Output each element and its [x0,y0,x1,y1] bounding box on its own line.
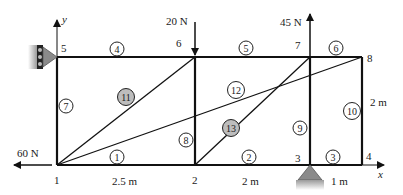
dimension-2-3: 2 m [242,175,259,187]
svg-text:2: 2 [247,152,252,163]
node-label-5: 5 [61,42,67,54]
roller-support-node-5 [28,45,57,69]
member-label-2: 2 [242,150,256,164]
roller-icon [38,55,42,59]
node-label-7: 7 [295,39,301,51]
svg-text:13: 13 [226,123,236,134]
svg-text:11: 11 [121,92,131,103]
member-label-11: 11 [118,89,135,106]
svg-text:8: 8 [184,135,189,146]
member-label-8: 8 [179,133,193,147]
node-label-3: 3 [295,152,301,164]
load-label: 20 N [166,15,188,27]
svg-text:4: 4 [115,44,120,55]
load-20n: 20 N [166,15,195,55]
ground-hatch [296,180,324,190]
node-labels: 1 2 3 4 5 6 7 8 [54,37,373,186]
member-13-line [195,57,310,165]
svg-text:5: 5 [244,43,249,54]
member-12-line [57,57,362,165]
member-label-5: 5 [239,41,253,55]
svg-text:10: 10 [347,106,357,117]
member-label-4: 4 [110,42,124,56]
member-labels: 1 2 3 4 5 6 7 8 9 10 11 12 13 [59,41,361,164]
load-60n: 60 N [14,147,52,165]
truss-diagram: y x 20 N 45 N 60 N [0,0,403,195]
pin-support-node-3 [296,165,324,190]
node-label-1: 1 [54,174,60,186]
member-11-line [57,57,195,165]
svg-text:6: 6 [334,43,339,54]
diagonal-members [57,57,362,165]
node-label-2: 2 [192,174,198,186]
svg-text:1: 1 [115,152,120,163]
svg-text:7: 7 [64,101,69,112]
member-label-10: 10 [344,103,361,120]
dimension-1-2: 2.5 m [112,175,138,187]
support-triangle-icon [298,165,322,180]
svg-text:12: 12 [231,85,241,96]
member-label-13: 13 [223,120,240,137]
support-triangle-icon [43,47,57,67]
member-label-6: 6 [329,41,343,55]
member-label-1: 1 [110,150,124,164]
wall-hatch [28,45,37,69]
node-label-6: 6 [176,37,182,49]
roller-icon [38,48,42,52]
load-label: 60 N [17,147,39,159]
load-label: 45 N [280,16,302,28]
x-axis-label: x [377,168,383,180]
roller-icon [38,62,42,66]
node-label-8: 8 [367,52,373,64]
dimension-3-4: 1 m [331,175,348,187]
member-label-9: 9 [293,121,307,135]
y-axis-label: y [61,13,67,25]
dimension-height: 2 m [370,96,387,108]
node-label-4: 4 [366,150,372,162]
svg-text:3: 3 [331,152,336,163]
svg-text:9: 9 [298,123,303,134]
member-label-7: 7 [59,99,73,113]
member-label-12: 12 [228,82,245,99]
member-label-3: 3 [326,150,340,164]
